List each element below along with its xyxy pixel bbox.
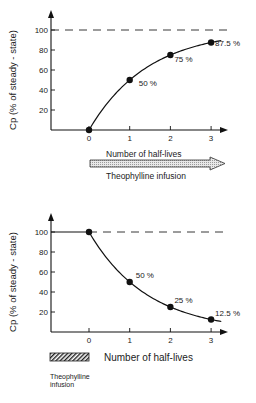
y-tick-label: 40	[39, 288, 48, 297]
data-point	[86, 127, 92, 133]
x-tick-label: 3	[209, 336, 214, 345]
y-axis-title: Cp (% of steady - state)	[7, 30, 18, 130]
infusion-label: Theophylline infusion	[106, 171, 186, 181]
data-point	[86, 229, 92, 235]
data-label: 50 %	[139, 79, 157, 88]
data-point	[127, 77, 133, 83]
elimination-chart: 20406080100012350 %25 %12.5 %Cp (% of st…	[7, 213, 240, 345]
data-point	[127, 279, 133, 285]
y-tick-label: 100	[35, 26, 49, 35]
y-tick-label: 60	[39, 66, 48, 75]
y-axis-title: Cp (% of steady - state)	[7, 232, 18, 332]
y-axis-arrowhead	[48, 10, 54, 18]
data-label: 87.5 %	[215, 39, 240, 48]
concentration-curve	[89, 232, 221, 321]
infusion-bar	[50, 353, 89, 361]
data-point	[167, 52, 173, 58]
x-tick-label: 2	[168, 134, 173, 143]
x-tick-label: 2	[168, 336, 173, 345]
data-label: 75 %	[174, 55, 192, 64]
y-axis-arrowhead	[48, 213, 54, 221]
data-point	[208, 316, 214, 322]
y-tick-label: 80	[39, 248, 48, 257]
y-tick-label: 20	[39, 308, 48, 317]
x-tick-label: 0	[87, 134, 92, 143]
x-tick-label: 3	[209, 134, 214, 143]
y-tick-label: 20	[39, 106, 48, 115]
x-tick-label: 1	[127, 134, 132, 143]
y-tick-label: 100	[35, 228, 49, 237]
x-tick-label: 0	[87, 336, 92, 345]
infusion-label-line1: Theophylline	[50, 373, 90, 381]
data-label: 12.5 %	[215, 309, 240, 318]
data-label: 25 %	[174, 296, 192, 305]
data-label: 50 %	[136, 271, 154, 280]
data-point	[167, 304, 173, 310]
data-point	[208, 39, 214, 45]
y-tick-label: 40	[39, 86, 48, 95]
y-tick-label: 80	[39, 46, 48, 55]
x-axis-label: Number of half-lives	[106, 149, 182, 159]
infusion-label-line2: infusion	[50, 381, 74, 388]
x-axis-arrowhead	[220, 127, 228, 133]
pharmacokinetics-figure: 20406080100012350 %75 %87.5 %Cp (% of st…	[0, 0, 256, 403]
x-axis-arrowhead	[220, 329, 228, 335]
y-tick-label: 60	[39, 268, 48, 277]
x-axis-label: Number of half-lives	[104, 352, 193, 363]
x-tick-label: 1	[127, 336, 132, 345]
accumulation-chart: 20406080100012350 %75 %87.5 %Cp (% of st…	[7, 10, 240, 143]
